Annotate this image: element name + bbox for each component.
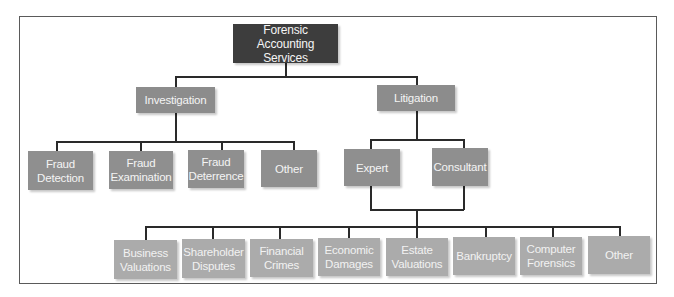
connector <box>145 226 620 228</box>
node-label: Litigation <box>394 91 438 105</box>
connector <box>370 139 464 141</box>
connector <box>416 111 418 140</box>
node-label: Deterrence <box>189 169 244 183</box>
node-fraud-examination: Fraud Examination <box>109 151 173 189</box>
node-label: Financial <box>259 244 303 258</box>
node-label: Investigation <box>145 93 207 107</box>
node-label: Fraud <box>126 156 155 170</box>
node-label: Fraud <box>46 157 75 171</box>
connector <box>175 76 177 87</box>
connector <box>416 209 418 227</box>
node-shareholder-disputes: Shareholder Disputes <box>182 239 245 278</box>
node-consultant: Consultant <box>432 148 488 186</box>
node-expert: Expert <box>344 149 400 186</box>
connector <box>619 226 621 236</box>
connector <box>279 226 281 239</box>
node-label: Economic <box>325 243 374 257</box>
connector <box>140 141 142 151</box>
node-litigation-other: Other <box>588 236 650 274</box>
connector <box>370 186 372 210</box>
node-label: Examination <box>110 170 171 184</box>
connector <box>145 226 147 240</box>
connector <box>293 141 295 150</box>
node-label: Bankruptcy <box>456 249 512 263</box>
node-label: Expert <box>356 161 388 175</box>
connector <box>552 226 554 237</box>
node-label: Forensic Accounting <box>236 23 335 51</box>
node-label: Fraud <box>201 155 230 169</box>
node-label: Forensics <box>527 256 575 270</box>
node-forensic-accounting-services: Forensic Accounting Services <box>233 24 338 63</box>
node-label: Damages <box>325 257 373 271</box>
node-label: Other <box>605 248 633 262</box>
connector <box>221 141 223 150</box>
node-fraud-detection: Fraud Detection <box>28 151 93 190</box>
node-litigation: Litigation <box>377 85 455 111</box>
node-financial-crimes: Financial Crimes <box>250 239 313 277</box>
node-label: Crimes <box>264 258 299 272</box>
node-label: Valuations <box>392 257 443 271</box>
node-label: Consultant <box>434 160 487 174</box>
node-computer-forensics: Computer Forensics <box>520 237 582 275</box>
node-label: Valuations <box>120 260 171 274</box>
connector <box>175 113 177 142</box>
connector <box>485 226 487 237</box>
connector <box>56 141 294 143</box>
connector <box>416 226 418 238</box>
node-label: Shareholder <box>183 245 243 259</box>
connector <box>463 186 465 210</box>
node-investigation: Investigation <box>136 87 215 113</box>
node-label: Services <box>263 51 307 65</box>
node-label: Business <box>123 246 168 260</box>
node-label: Detection <box>37 171 84 185</box>
node-label: Other <box>275 162 303 176</box>
connector <box>348 226 350 238</box>
node-fraud-deterrence: Fraud Deterrence <box>188 150 244 188</box>
node-estate-valuations: Estate Valuations <box>386 238 448 276</box>
connector <box>370 139 372 149</box>
node-economic-damages: Economic Damages <box>318 238 380 276</box>
connector <box>175 76 417 78</box>
connector <box>212 226 214 239</box>
node-label: Computer <box>527 242 576 256</box>
node-business-valuations: Business Valuations <box>114 240 177 279</box>
node-label: Disputes <box>192 259 235 273</box>
node-investigation-other: Other <box>261 150 317 187</box>
node-bankruptcy: Bankruptcy <box>453 237 515 275</box>
connector <box>56 141 58 151</box>
connector <box>463 139 465 148</box>
node-label: Estate <box>401 243 432 257</box>
connector <box>285 63 287 77</box>
